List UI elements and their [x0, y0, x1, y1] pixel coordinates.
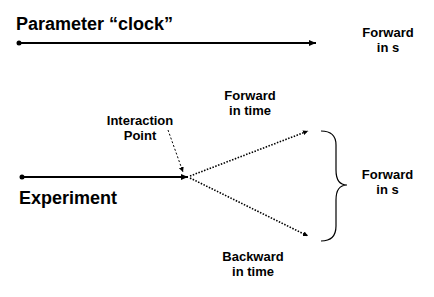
clock-result-label: Forward in s — [358, 26, 418, 56]
curly-brace — [321, 131, 347, 241]
clock-result-line1: Forward — [358, 26, 418, 41]
diagram-canvas: Parameter “clock” Forward in s Forward i… — [0, 0, 434, 297]
backward-time-line2: in time — [208, 265, 298, 280]
forward-time-line1: Forward — [210, 89, 290, 104]
forward-time-line2: in time — [210, 104, 290, 119]
backward-time-line1: Backward — [208, 250, 298, 265]
forward-time-arrow — [190, 131, 308, 176]
interaction-line2: Point — [100, 129, 180, 144]
experiment-result-label: Forward in s — [355, 168, 420, 198]
interaction-line1: Interaction — [100, 114, 180, 129]
experiment-result-line1: Forward — [355, 168, 420, 183]
experiment-label: Experiment — [19, 188, 117, 209]
clock-result-line2: in s — [358, 41, 418, 56]
forward-time-label: Forward in time — [210, 89, 290, 119]
backward-time-arrow — [190, 178, 308, 236]
interaction-point-label: Interaction Point — [100, 114, 180, 144]
experiment-result-line2: in s — [355, 183, 420, 198]
backward-time-label: Backward in time — [208, 250, 298, 280]
parameter-clock-label: Parameter “clock” — [16, 14, 173, 35]
